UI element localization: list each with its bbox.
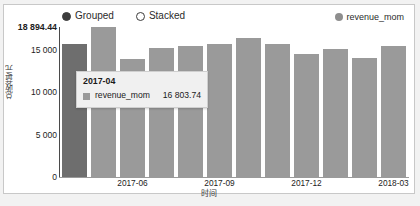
x-tick-label: 2017-06 (117, 179, 147, 187)
tooltip-series-value: 16 803.74 (163, 90, 201, 101)
bar-slot[interactable] (321, 27, 350, 177)
bar[interactable] (178, 46, 202, 177)
bar[interactable] (323, 49, 347, 177)
y-tick-label: 0 (11, 173, 57, 182)
chart-card: Grouped Stacked revenue_mom 总收益/元 18 894… (3, 4, 415, 194)
radio-selected-icon[interactable] (62, 12, 71, 21)
chart-mode-legend: Grouped Stacked (62, 11, 185, 21)
y-tick-label: 15 000 (11, 46, 57, 55)
mode-option-stacked-label: Stacked (149, 11, 185, 21)
bar[interactable] (352, 58, 376, 177)
x-tick-label: 2018-03 (378, 179, 408, 187)
bar[interactable] (381, 46, 405, 177)
y-tick-label: 10 000 (11, 88, 57, 97)
y-axis-ticks: 18 894.44 15 000 10 000 5 000 0 (4, 5, 57, 206)
series-legend-label: revenue_mom (346, 12, 404, 22)
mode-option-stacked[interactable]: Stacked (136, 11, 185, 21)
mode-option-grouped-label: Grouped (75, 11, 114, 21)
radio-unselected-icon[interactable] (136, 12, 145, 21)
bar[interactable] (62, 44, 86, 177)
tooltip-title: 2017-04 (83, 76, 201, 87)
x-tick-label: 2017-09 (204, 179, 234, 187)
y-tick-label: 18 894.44 (4, 23, 57, 32)
bar-slot[interactable] (205, 27, 234, 177)
bar[interactable] (149, 48, 173, 177)
tooltip-swatch-icon (83, 93, 90, 100)
bar-slot[interactable] (292, 27, 321, 177)
bar[interactable] (207, 44, 231, 177)
series-legend[interactable]: revenue_mom (335, 12, 404, 22)
bar[interactable] (236, 38, 260, 177)
x-axis-title: 时间 (4, 190, 414, 198)
bar-slot[interactable] (350, 27, 379, 177)
bar[interactable] (294, 54, 318, 177)
mode-option-grouped[interactable]: Grouped (62, 11, 114, 21)
bar-slot[interactable] (234, 27, 263, 177)
tooltip-series-name: revenue_mom (95, 90, 150, 101)
tooltip-row: revenue_mom 16 803.74 (83, 90, 201, 101)
x-tick-label: 2017-12 (291, 179, 321, 187)
bar[interactable] (265, 44, 289, 177)
y-tick-label: 5 000 (11, 131, 57, 140)
series-dot-icon[interactable] (335, 13, 343, 21)
chart-tooltip: 2017-04 revenue_mom 16 803.74 (76, 71, 208, 108)
bar-slot[interactable] (379, 27, 408, 177)
bar-slot[interactable] (263, 27, 292, 177)
chart-screenshot: Grouped Stacked revenue_mom 总收益/元 18 894… (0, 0, 420, 206)
